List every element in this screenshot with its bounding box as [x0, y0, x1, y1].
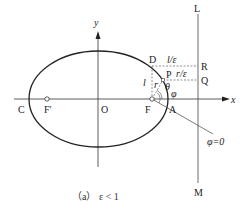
x-axis-arrow-icon [222, 97, 230, 102]
phi-arc [158, 93, 161, 103]
label-R: R [201, 61, 208, 72]
label-D: D [149, 54, 156, 65]
label-theta: θ [165, 81, 170, 92]
label-C: C [18, 104, 25, 115]
figure-caption: （a） ε < 1 [72, 191, 119, 202]
y-axis-arrow-icon [96, 31, 101, 39]
label-l: l [143, 77, 146, 88]
focus-F-prime-marker [45, 97, 49, 101]
label-r-over-eps: r/ε [176, 68, 187, 79]
label-phi: φ [171, 88, 177, 99]
label-P: P [166, 69, 172, 80]
label-r: r [154, 79, 158, 90]
ellipse-diagram: y x O C F′ F A D P R Q L M l/ε r/ε l r θ… [0, 0, 241, 220]
label-l-over-eps: l/ε [167, 54, 177, 65]
label-phi-zero: φ=0 [207, 136, 224, 147]
label-Q: Q [201, 75, 209, 86]
label-M: M [194, 187, 203, 198]
label-L: L [194, 3, 200, 14]
theta-arc [157, 90, 162, 99]
x-axis-label: x [230, 94, 236, 105]
label-F-prime: F′ [44, 104, 52, 115]
phi-zero-line [152, 99, 213, 134]
y-axis-label: y [93, 17, 99, 28]
label-A: A [169, 104, 177, 115]
label-F: F [145, 104, 151, 115]
label-O: O [101, 104, 108, 115]
focus-F-marker [150, 97, 154, 101]
